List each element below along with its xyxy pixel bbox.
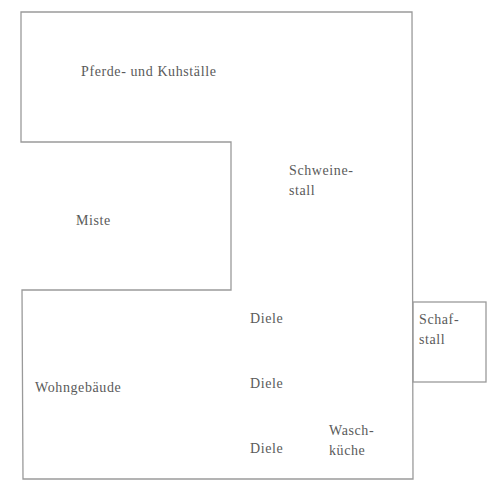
room-label-schweinestall-line2: stall [289, 181, 315, 201]
room-label-miste: Miste [76, 211, 111, 231]
room-label-schweinestall-line1: Schweine- [289, 161, 354, 181]
room-label-diele-1: Diele [250, 309, 283, 329]
room-label-schafstall-line2: stall [419, 330, 445, 350]
room-label-schafstall-line1: Schaf- [419, 310, 459, 330]
main-building-outline [21, 12, 413, 479]
room-label-wohngebaeude: Wohngebäude [35, 378, 121, 398]
room-label-diele-2: Diele [250, 374, 283, 394]
room-label-waschkueche-line2: küche [329, 441, 365, 461]
room-label-waschkueche-line1: Wasch- [329, 421, 374, 441]
room-label-pferde-kuhstaelle: Pferde- und Kuhställe [81, 62, 216, 82]
room-label-diele-3: Diele [250, 439, 283, 459]
floor-plan-outline [0, 0, 503, 494]
